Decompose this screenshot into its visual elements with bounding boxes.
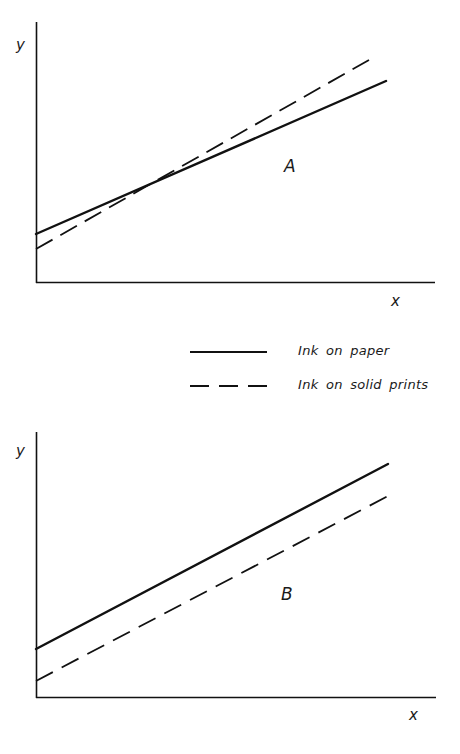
legend-samples — [190, 352, 267, 386]
legend-label-ink-on-paper: Ink on paper — [298, 344, 389, 357]
panel-b-label: B — [281, 586, 293, 603]
panel-a-x-label: x — [391, 294, 400, 309]
panel-b — [36, 432, 436, 698]
panel-b-series-ink-on-paper — [36, 464, 388, 649]
panel-b-x-label: x — [409, 708, 418, 723]
panel-a-series-ink-on-paper — [36, 81, 386, 234]
panel-b-y-label: y — [16, 444, 25, 459]
legend-label-ink-on-solid-prints: Ink on solid prints — [298, 378, 428, 391]
panel-b-series-ink-on-solid-prints — [36, 496, 388, 681]
panel-a-series-ink-on-solid-prints — [36, 60, 369, 249]
panel-a-y-label: y — [16, 38, 25, 53]
panel-a-label: A — [284, 158, 296, 175]
panel-a — [36, 22, 435, 283]
